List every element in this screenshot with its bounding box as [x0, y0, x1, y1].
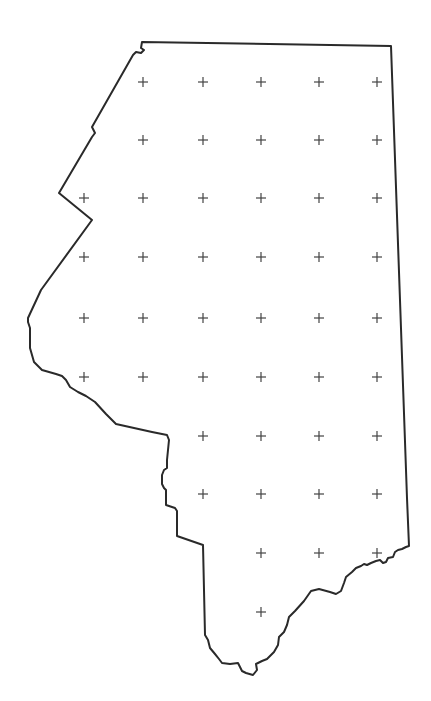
grid-cross-marker — [79, 193, 89, 203]
grid-cross-marker — [198, 193, 208, 203]
grid-cross-marker — [256, 548, 266, 558]
grid-cross-marker — [138, 313, 148, 323]
grid-cross-marker — [372, 431, 382, 441]
grid-cross-marker — [256, 77, 266, 87]
grid-cross-marker — [314, 489, 324, 499]
grid-cross-marker — [138, 252, 148, 262]
region-boundary — [28, 42, 409, 675]
map-canvas — [0, 0, 431, 701]
grid-cross-marker — [198, 77, 208, 87]
grid-cross-marker — [256, 313, 266, 323]
grid-cross-marker — [256, 431, 266, 441]
grid-cross-marker — [256, 489, 266, 499]
grid-cross-marker — [314, 252, 324, 262]
grid-cross-marker — [372, 193, 382, 203]
grid-cross-marker — [372, 313, 382, 323]
grid-cross-marker — [256, 372, 266, 382]
grid-cross-marker — [198, 489, 208, 499]
grid-cross-marker — [256, 135, 266, 145]
sample-grid — [79, 77, 382, 617]
grid-cross-marker — [314, 372, 324, 382]
grid-cross-marker — [198, 135, 208, 145]
grid-cross-marker — [138, 372, 148, 382]
grid-cross-marker — [138, 77, 148, 87]
grid-cross-marker — [79, 372, 89, 382]
grid-cross-marker — [314, 135, 324, 145]
grid-cross-marker — [256, 607, 266, 617]
grid-cross-marker — [372, 135, 382, 145]
grid-cross-marker — [372, 489, 382, 499]
grid-cross-marker — [198, 313, 208, 323]
grid-cross-marker — [372, 77, 382, 87]
grid-cross-marker — [79, 252, 89, 262]
grid-cross-marker — [198, 372, 208, 382]
grid-cross-marker — [198, 252, 208, 262]
grid-cross-marker — [314, 548, 324, 558]
grid-cross-marker — [138, 135, 148, 145]
grid-cross-marker — [314, 431, 324, 441]
grid-cross-marker — [256, 193, 266, 203]
grid-cross-marker — [198, 431, 208, 441]
grid-cross-marker — [314, 193, 324, 203]
grid-cross-marker — [256, 252, 266, 262]
grid-cross-marker — [314, 313, 324, 323]
grid-cross-marker — [372, 548, 382, 558]
grid-cross-marker — [79, 313, 89, 323]
grid-cross-marker — [314, 77, 324, 87]
grid-cross-marker — [372, 252, 382, 262]
grid-cross-marker — [372, 372, 382, 382]
grid-cross-marker — [138, 193, 148, 203]
